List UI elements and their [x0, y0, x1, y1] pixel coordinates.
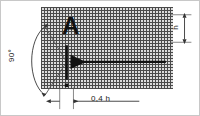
angle-label: 90° — [7, 49, 16, 62]
reference-square-mark — [65, 84, 69, 88]
height-dimension-label: h — [171, 25, 180, 29]
notch-lower-flank-line — [45, 62, 67, 95]
angle-dimension-arc — [32, 27, 45, 96]
technical-drawing-canvas: A 90° h 0,4 h — [0, 0, 200, 116]
surface-label-a: A — [62, 14, 79, 38]
offset-dimension-label: 0,4 h — [91, 94, 110, 103]
